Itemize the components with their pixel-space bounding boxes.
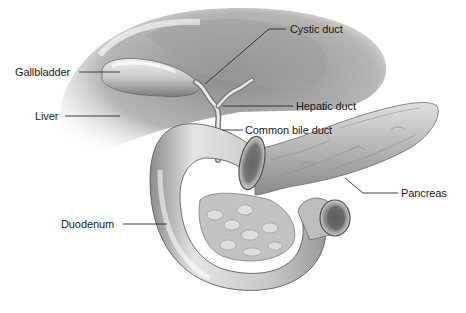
label-liver: Liver bbox=[35, 110, 58, 122]
label-gallbladder: Gallbladder bbox=[15, 66, 70, 78]
leader-pancreas bbox=[345, 178, 398, 193]
label-hepatic-duct: Hepatic duct bbox=[296, 100, 356, 112]
label-cystic-duct: Cystic duct bbox=[290, 23, 343, 35]
label-duodenum: Duodenum bbox=[61, 218, 114, 230]
label-common-bile-duct: Common bile duct bbox=[245, 124, 332, 136]
label-pancreas: Pancreas bbox=[401, 187, 447, 199]
anatomy-illustration bbox=[0, 0, 466, 313]
